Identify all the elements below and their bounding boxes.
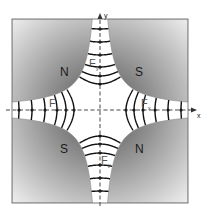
pole-label-top-left: N (60, 65, 69, 79)
force-label-top: Fy (89, 57, 99, 71)
y-axis-arrow-icon (98, 13, 103, 19)
pole-bottom-right (108, 118, 189, 203)
pole-label-bottom-right: N (135, 142, 144, 156)
force-label-bottom: Fy (101, 154, 111, 168)
pole-top-left (12, 19, 92, 102)
x-axis-label: x (197, 112, 201, 119)
pole-label-bottom-left: S (60, 142, 68, 156)
pole-bottom-left (12, 118, 93, 203)
force-label-right: Fx (141, 97, 151, 111)
quadrupole-diagram: xyNSSNFyFxFxFy (0, 0, 209, 217)
pole-label-top-right: S (135, 65, 143, 79)
pole-top-right (108, 19, 188, 102)
y-axis-label: y (104, 12, 108, 20)
